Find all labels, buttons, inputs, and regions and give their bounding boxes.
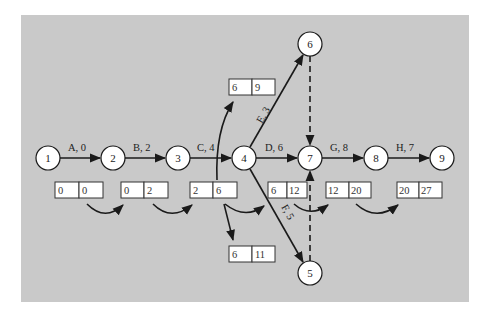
- svg-text:9: 9: [439, 152, 445, 164]
- node-7: 7: [298, 146, 322, 170]
- label-h: H, 7: [396, 142, 414, 153]
- svg-text:2: 2: [110, 152, 116, 164]
- svg-text:11: 11: [255, 249, 265, 260]
- node-6: 6: [298, 32, 322, 56]
- svg-text:20: 20: [399, 185, 410, 196]
- svg-text:4: 4: [241, 152, 247, 164]
- svg-text:7: 7: [307, 152, 313, 164]
- label-b: B, 2: [133, 142, 151, 153]
- time-box-d: 6 12: [268, 182, 307, 198]
- svg-text:6: 6: [232, 82, 237, 93]
- label-g: G, 8: [330, 142, 348, 153]
- time-box-a: 0 0: [55, 182, 103, 198]
- svg-text:27: 27: [421, 185, 432, 196]
- node-2: 2: [101, 146, 125, 170]
- svg-text:8: 8: [373, 152, 379, 164]
- svg-text:20: 20: [351, 185, 362, 196]
- network-diagram: A, 0 B, 2 C, 4 D, 6 E, 3 F, 5 G, 8 H, 7 …: [0, 0, 493, 315]
- svg-text:6: 6: [307, 38, 313, 50]
- svg-text:2: 2: [193, 185, 198, 196]
- svg-text:9: 9: [255, 82, 260, 93]
- svg-text:0: 0: [58, 185, 63, 196]
- svg-text:1: 1: [45, 152, 51, 164]
- svg-text:6: 6: [216, 185, 221, 196]
- time-box-h: 20 27: [397, 182, 442, 198]
- svg-text:2: 2: [147, 185, 152, 196]
- node-3: 3: [166, 146, 190, 170]
- svg-text:12: 12: [328, 185, 339, 196]
- node-5: 5: [298, 261, 322, 285]
- svg-text:5: 5: [307, 267, 313, 279]
- time-box-f: 6 11: [229, 246, 275, 262]
- label-c: C, 4: [197, 142, 215, 153]
- svg-text:6: 6: [271, 185, 276, 196]
- svg-text:6: 6: [232, 249, 237, 260]
- label-d: D, 6: [265, 142, 283, 153]
- time-box-e: 6 9: [229, 79, 275, 95]
- node-9: 9: [430, 146, 454, 170]
- time-box-b: 0 2: [121, 182, 168, 198]
- svg-text:0: 0: [124, 185, 129, 196]
- time-box-g: 12 20: [326, 182, 371, 198]
- node-4: 4: [232, 146, 256, 170]
- svg-text:12: 12: [289, 185, 300, 196]
- node-1: 1: [36, 146, 60, 170]
- label-a: A, 0: [68, 142, 86, 153]
- svg-text:3: 3: [175, 152, 181, 164]
- node-8: 8: [364, 146, 388, 170]
- svg-text:0: 0: [82, 185, 87, 196]
- time-box-c: 2 6: [190, 182, 237, 198]
